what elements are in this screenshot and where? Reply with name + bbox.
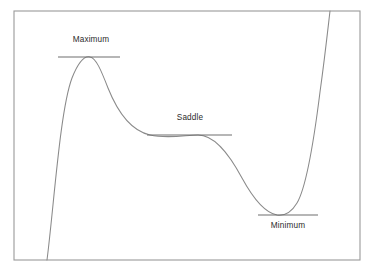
figure-container: Maximum Saddle Minimum [0,0,377,270]
saddle-label: Saddle [177,114,203,122]
figure-canvas [0,0,377,270]
maximum-label: Maximum [73,36,110,44]
minimum-label: Minimum [271,222,305,230]
